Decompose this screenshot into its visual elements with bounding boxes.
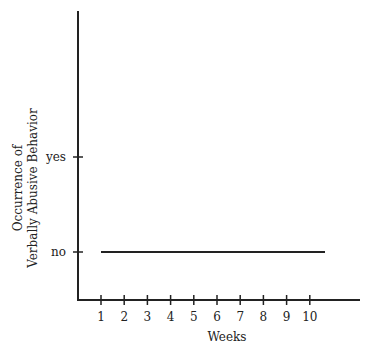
x-tick-label: 8 [260,310,268,324]
y-tick-label-no: no [51,245,66,259]
x-tick-label: 7 [236,310,244,324]
x-axis-label: Weeks [208,330,247,344]
x-tick-label: 1 [97,310,105,324]
line-chart: yes no Occurrence of Verbally Abusive Be… [0,0,374,356]
x-tick-label: 2 [120,310,128,324]
x-tick-label: 5 [190,310,198,324]
svg-text:Occurrence of: Occurrence of [11,143,25,231]
y-axis-label: Occurrence of Verbally Abusive Behavior [11,108,40,269]
x-tick-label: 10 [302,310,317,324]
svg-text:Verbally Abusive Behavior: Verbally Abusive Behavior [26,108,40,269]
x-tick-label: 3 [144,310,152,324]
y-tick-label-yes: yes [45,150,66,164]
x-tick-label: 4 [167,310,175,324]
x-tick-label: 9 [283,310,291,324]
x-tick-label: 6 [213,310,221,324]
